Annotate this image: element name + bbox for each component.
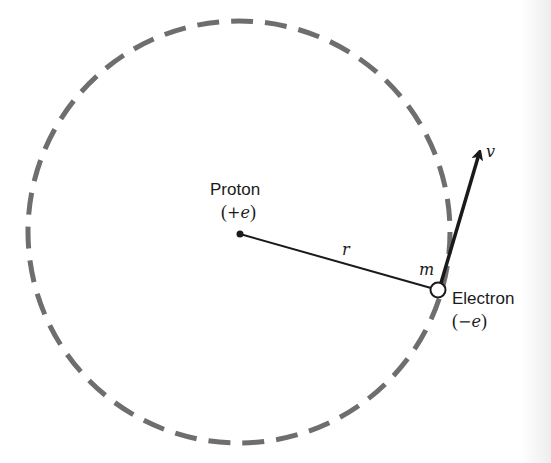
electron-label: Electron (452, 289, 514, 309)
electron-charge-close: ) (481, 311, 487, 331)
electron-circle (431, 283, 446, 298)
proton-charge: (+e) (221, 202, 256, 223)
radius-label: r (342, 240, 350, 259)
mass-label: m (419, 260, 434, 279)
velocity-label: v (486, 142, 495, 161)
proton-dot (237, 231, 244, 238)
electron-charge-value: −e (458, 312, 481, 331)
atom-diagram (0, 0, 551, 463)
radius-line (240, 234, 431, 288)
proton-label: Proton (210, 180, 260, 200)
proton-charge-close: ) (250, 202, 256, 222)
velocity-arrow (441, 154, 479, 283)
proton-charge-value: +e (227, 203, 250, 222)
electron-charge: (−e) (452, 311, 487, 332)
